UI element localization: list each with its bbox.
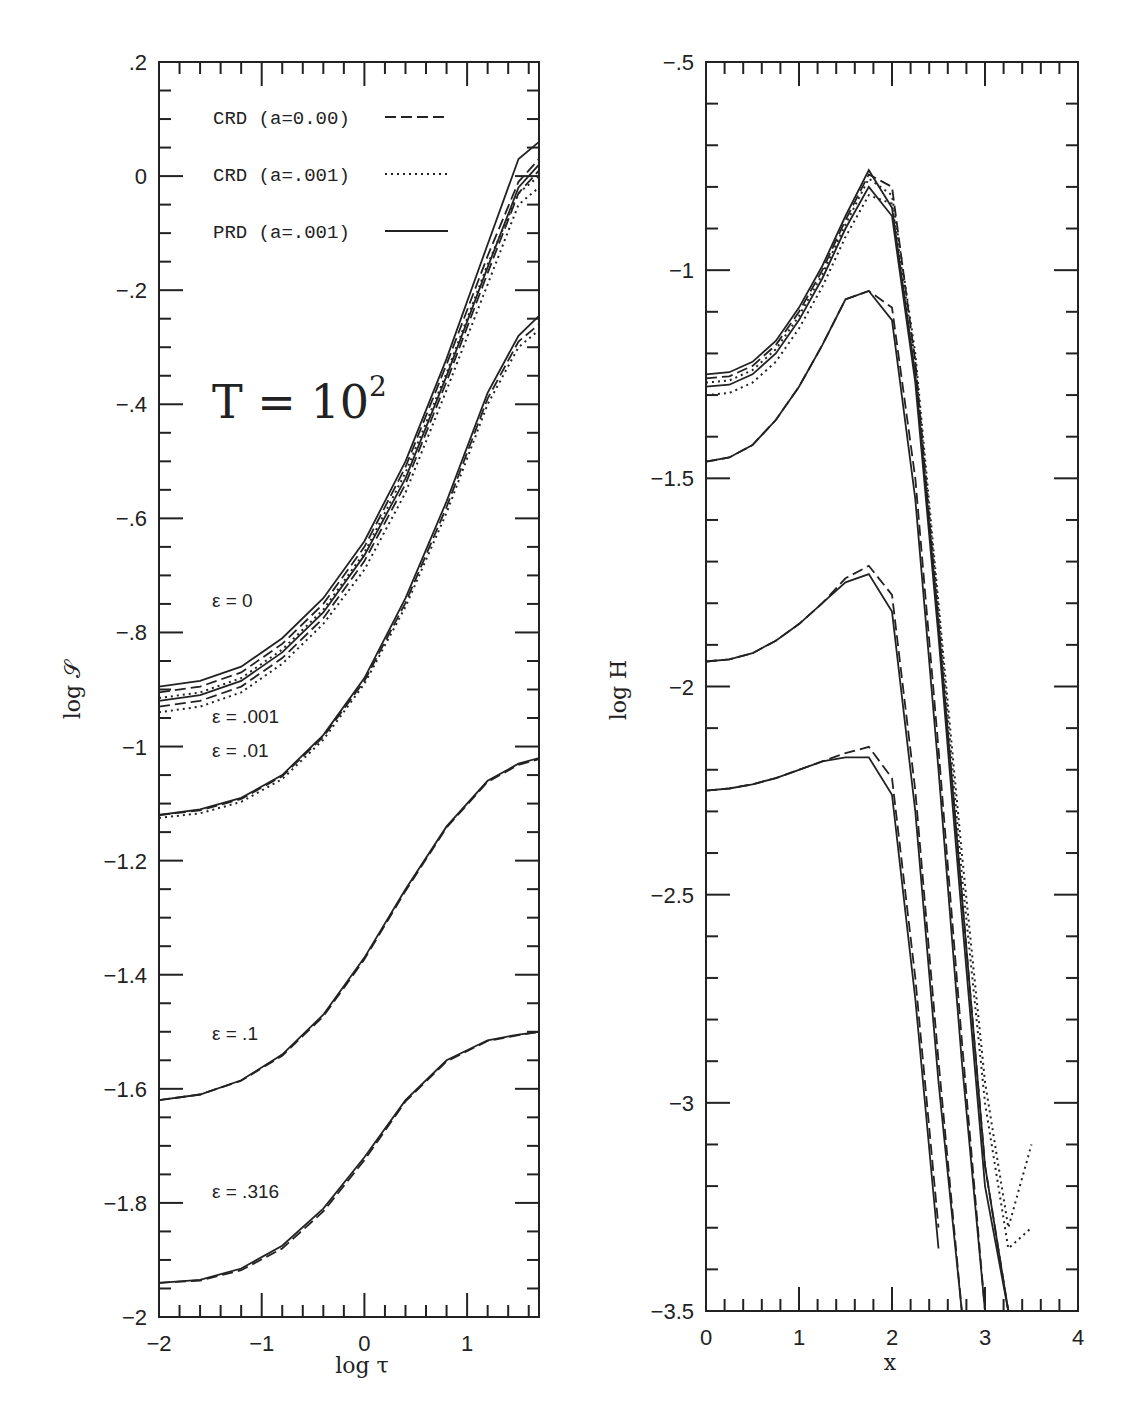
left-panel: −2−101.20−.2−.4−.6−.8−1−1.2−1.4−1.6−1.8−… [60,50,539,1378]
series-line [706,195,1032,1248]
x-tick-label: 0 [700,1325,712,1350]
y-tick-label: 0 [135,164,147,189]
right-axis-ticks: 01234−.5−1−1.5−2−2.5−3−3.5 [651,50,1085,1350]
legend-label-crd-a0: CRD (a=0.00) [213,108,350,130]
x-tick-label: 1 [793,1325,805,1350]
left-x-axis-label: log τ [335,1353,389,1378]
y-tick-label: −3.5 [651,1299,694,1324]
right-plot-curves [706,170,1032,1311]
legend: CRD (a=0.00) CRD (a=.001) PRD (a=.001) [213,108,448,244]
left-y-axis-label: log 𝒮 [60,659,85,719]
x-tick-label: 2 [886,1325,898,1350]
series-line [159,1032,539,1283]
y-tick-label: −2 [122,1305,147,1330]
y-tick-label: −2.5 [651,883,694,908]
figure-canvas: −2−101.20−.2−.4−.6−.8−1−1.2−1.4−1.6−1.8−… [0,0,1125,1416]
epsilon-label-001: ε = .001 [212,706,279,727]
epsilon-label-01: ε = .01 [212,740,269,761]
series-line [159,188,539,713]
left-axis-ticks: −2−101.20−.2−.4−.6−.8−1−1.2−1.4−1.6−1.8−… [104,50,539,1356]
legend-label-crd-a001: CRD (a=.001) [213,165,350,187]
series-line [159,170,539,706]
temperature-annotation: T = 102 [212,370,387,429]
series-line [706,179,1032,1228]
y-tick-label: −1.5 [651,466,694,491]
y-tick-label: −1.2 [104,849,147,874]
series-line [159,1032,539,1283]
series-line [706,757,939,1248]
y-tick-label: −1.6 [104,1077,147,1102]
y-tick-label: −.6 [116,506,147,531]
series-line [706,291,985,1311]
y-tick-label: −3 [669,1091,694,1116]
series-line [159,176,539,698]
right-plot-frame [706,62,1078,1311]
series-line [706,187,1008,1311]
series-line [159,165,539,701]
y-tick-label: −.5 [663,50,694,75]
right-y-axis-label: log H [606,660,631,721]
x-tick-label: 4 [1072,1325,1084,1350]
series-line [706,170,1008,1311]
series-line [706,747,939,1228]
x-tick-label: 3 [979,1325,991,1350]
y-tick-label: −1.4 [104,963,147,988]
y-tick-label: −.8 [116,620,147,645]
series-line [706,566,962,1311]
series-line [706,574,962,1311]
y-tick-label: −.2 [116,278,147,303]
legend-label-prd-a001: PRD (a=.001) [213,222,350,244]
epsilon-label-1: ε = .1 [212,1023,258,1044]
y-tick-label: −1.8 [104,1191,147,1216]
y-tick-label: .2 [129,50,147,75]
y-tick-label: −1 [669,258,694,283]
x-tick-label: 1 [461,1331,473,1356]
epsilon-label-0: ε = 0 [212,590,253,611]
x-tick-label: −1 [249,1331,274,1356]
series-line [159,758,539,1100]
y-tick-label: −1 [122,735,147,760]
epsilon-label-316: ε = .316 [212,1181,279,1202]
right-panel: 01234−.5−1−1.5−2−2.5−3−3.5 x log H [606,50,1084,1375]
y-tick-label: −2 [669,675,694,700]
series-line [159,759,539,1100]
x-tick-label: −2 [146,1331,171,1356]
series-line [706,174,1008,1311]
right-x-axis-label: x [884,1350,897,1375]
y-tick-label: −.4 [116,392,147,417]
